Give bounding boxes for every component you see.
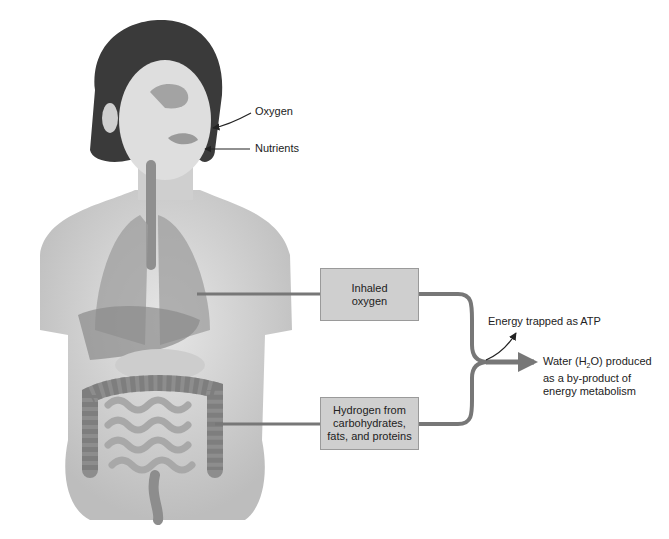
water-text: O) produced	[591, 355, 652, 367]
connector-oxygen-merge	[418, 294, 488, 362]
box-line: Inhaled	[351, 282, 387, 295]
box-line: Hydrogen from	[327, 404, 411, 417]
atp-arrow	[486, 333, 516, 360]
water-text: Water (H	[543, 355, 587, 367]
box-line: carbohydrates,	[327, 417, 411, 430]
face	[119, 60, 211, 180]
connector-hydrogen-merge	[418, 362, 488, 424]
box-line: oxygen	[351, 295, 387, 308]
inhaled-oxygen-box: Inhaled oxygen	[320, 268, 419, 321]
trachea	[146, 160, 156, 270]
nutrients-label: Nutrients	[255, 142, 299, 155]
water-line-3: energy metabolism	[543, 385, 652, 398]
oxygen-label: Oxygen	[255, 105, 293, 118]
atp-label: Energy trapped as ATP	[488, 315, 601, 328]
water-line-2: as a by-product of	[543, 372, 652, 385]
box-line: fats, and proteins	[327, 430, 411, 443]
hydrogen-box: Hydrogen from carbohydrates, fats, and p…	[320, 397, 419, 450]
water-label: Water (H2O) produced as a by-product of …	[543, 355, 652, 398]
